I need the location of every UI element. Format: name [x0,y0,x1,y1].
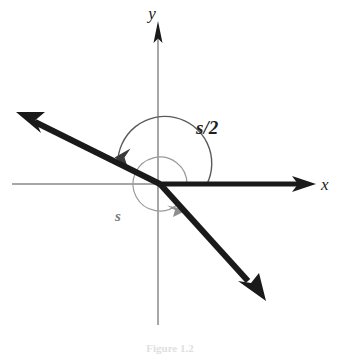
ray-lower-right [160,184,248,281]
x-axis-label: x [320,175,329,194]
y-axis-label: y [146,4,156,23]
figure-caption-fragment: Figure 1.2 [146,342,194,354]
caption-group: Figure 1.2 [146,342,194,354]
ray-upper-left [35,122,160,184]
labels-group: y x s/2 s [114,4,329,224]
axes-group [12,21,316,325]
angle-label-s: s [114,208,121,224]
rays-group [16,112,304,301]
angle-diagram-figure: y x s/2 s Figure 1.2 [0,0,341,356]
angle-label-s-over-2: s/2 [195,117,219,138]
diagram-canvas: y x s/2 s Figure 1.2 [0,0,341,356]
